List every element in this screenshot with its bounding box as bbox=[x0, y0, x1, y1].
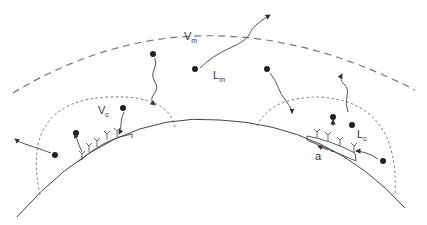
outer-volume-boundary bbox=[13, 36, 415, 93]
patch-center bbox=[331, 150, 333, 152]
local-volume-right bbox=[257, 97, 395, 195]
label-vm: Vm bbox=[184, 30, 197, 44]
receptor-patch-left bbox=[78, 134, 132, 162]
label-vc: Vc bbox=[98, 104, 109, 118]
label-lm: Lm bbox=[213, 69, 225, 83]
label-lc: Lc bbox=[357, 128, 367, 142]
diagram-canvas: Vm Lm Vc Lc a bbox=[0, 0, 427, 225]
receptors-right bbox=[314, 129, 357, 152]
label-a: a bbox=[315, 150, 322, 162]
